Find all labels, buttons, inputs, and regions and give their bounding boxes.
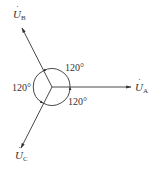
angle-label-ca: 120°	[68, 96, 87, 107]
phasor-a-label: U A ·	[135, 74, 148, 95]
phasor-diagram: U B · U A · U C · 120° 120° 120°	[0, 0, 153, 174]
svg-text:B: B	[21, 14, 26, 22]
phasor-c-label: U C ·	[15, 142, 28, 163]
svg-text:·: ·	[16, 1, 19, 11]
svg-text:·: ·	[18, 142, 21, 152]
phasor-b-line	[22, 28, 52, 87]
phasor-b-label: U B ·	[13, 1, 26, 22]
svg-text:·: ·	[138, 74, 141, 84]
angle-label-bc: 120°	[12, 82, 31, 93]
angle-label-ab: 120°	[65, 62, 84, 73]
svg-text:C: C	[23, 155, 28, 163]
phasor-c-line	[21, 87, 52, 148]
angle-arc-bc	[33, 71, 43, 103]
svg-text:A: A	[143, 87, 148, 95]
